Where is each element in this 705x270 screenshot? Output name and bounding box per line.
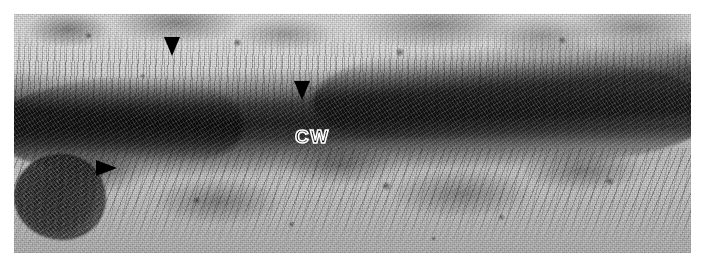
arrowhead-down-icon-2 bbox=[294, 81, 310, 100]
figure-root: CW bbox=[0, 0, 705, 270]
dark-organelle-texture bbox=[16, 156, 104, 238]
upper-microfibril-striations bbox=[14, 24, 691, 129]
cell-wall-label: CW bbox=[295, 127, 330, 146]
arrowhead-down-icon-1 bbox=[164, 37, 180, 56]
arrowhead-right-icon-3 bbox=[96, 160, 117, 176]
electron-micrograph-plate bbox=[14, 14, 691, 253]
